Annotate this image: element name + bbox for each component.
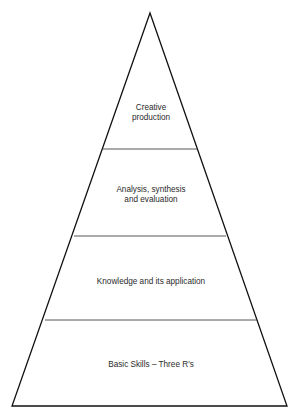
level-knowledge-application: Knowledge and its application	[97, 277, 206, 286]
level-label-line: production	[132, 113, 171, 122]
level-creative-production: Creative production	[132, 103, 171, 122]
level-basic-skills: Basic Skills – Three R's	[108, 360, 194, 369]
level-label-line: and evaluation	[124, 195, 178, 204]
level-label-line: Creative	[136, 103, 167, 112]
level-label-line: Knowledge and its application	[97, 277, 206, 286]
pyramid-outline	[12, 13, 287, 406]
level-analysis-synthesis-evaluation: Analysis, synthesis and evaluation	[116, 185, 185, 204]
level-label-line: Analysis, synthesis	[116, 185, 185, 194]
level-label-line: Basic Skills – Three R's	[108, 360, 194, 369]
pyramid-diagram: Creative production Analysis, synthesis …	[0, 0, 298, 417]
